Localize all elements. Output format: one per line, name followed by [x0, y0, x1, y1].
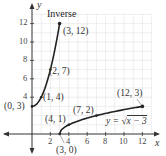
x-axis-arrow-left-icon: [3, 132, 9, 137]
radical-sign-icon: √: [121, 116, 126, 126]
point-label-4-1: (4, 1): [45, 115, 66, 125]
equation-radicand: x − 3: [127, 115, 147, 126]
point-label-1-4: (1, 4): [43, 93, 64, 103]
point-label-0-3: (0, 3): [4, 102, 25, 112]
leader-line: [137, 99, 143, 106]
y-axis-arrow-down-icon: [30, 148, 35, 154]
tick-y-12: 12: [19, 18, 28, 27]
point-label-3-12: (3, 12): [63, 27, 88, 37]
point-label-12-3: (12, 3): [117, 89, 142, 99]
data-point-marker: [68, 124, 71, 127]
y-axis-label: y: [37, 0, 41, 10]
leader-line: [60, 134, 65, 143]
chart-title: Inverse: [47, 9, 76, 19]
equation-label: y = √x − 3: [106, 117, 147, 127]
tick-x-2: 2: [48, 137, 52, 146]
x-axis-label: x: [155, 138, 159, 148]
tick-x-12: 12: [138, 137, 147, 146]
tick-y-4: 4: [23, 92, 27, 101]
equation-prefix: y =: [106, 116, 121, 126]
data-point-marker: [31, 105, 34, 108]
data-point-marker: [58, 22, 62, 26]
tick-y-8: 8: [23, 55, 27, 64]
data-point-marker: [95, 114, 98, 117]
point-label-3-0: (3, 0): [56, 146, 77, 156]
tick-y-6: 6: [23, 74, 27, 83]
tick-x-6: 6: [85, 137, 89, 146]
point-label-2-7: (2, 7): [49, 67, 70, 77]
tick-x-10: 10: [119, 137, 128, 146]
tick-y-10: 10: [19, 37, 28, 46]
tick-x-8: 8: [103, 137, 107, 146]
point-label-7-2: (7, 2): [73, 106, 94, 116]
y-axis-arrow-up-icon: [30, 3, 35, 9]
x-axis-arrow-right-icon: [154, 132, 160, 137]
